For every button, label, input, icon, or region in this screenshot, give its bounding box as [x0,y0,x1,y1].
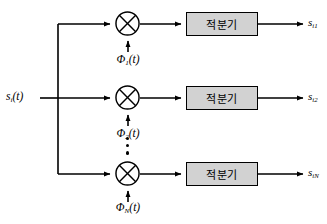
input-signal-tail: (t) [12,90,23,102]
output-signal-sub: i1 [312,22,317,29]
carrier-tail: (t) [129,127,140,139]
integrator-block: 적분기 [186,12,258,36]
carrier-label: Φ2(t) [93,128,163,141]
input-signal-label: si(t) [6,91,23,104]
carrier-tail: (t) [129,53,140,65]
block-diagram-canvas: 적분기 적분기 적분기 si(t) Φ1(t) Φ2(t) ΦN(t) si1 … [0,0,327,224]
carrier-base: Φ [116,53,125,65]
output-signal-label: si2 [308,91,318,104]
output-signal-label: si1 [308,17,318,30]
multiplier-icon [115,85,140,110]
ellipsis-dot [126,144,129,147]
ellipsis-dot [126,151,129,154]
diagram-wires [0,0,327,224]
carrier-label: Φ1(t) [93,54,163,67]
carrier-label: ΦN(t) [93,202,163,215]
output-signal-sub: iN [312,172,318,179]
output-signal-sub: i2 [312,96,317,103]
multiplier-icon [115,11,140,36]
output-signal-label: siN [308,167,319,180]
carrier-tail: (t) [129,201,140,213]
integrator-block: 적분기 [186,162,258,186]
carrier-base: Φ [116,127,125,139]
integrator-block: 적분기 [186,86,258,110]
multiplier-icon [115,161,140,186]
carrier-base: Φ [116,201,125,213]
